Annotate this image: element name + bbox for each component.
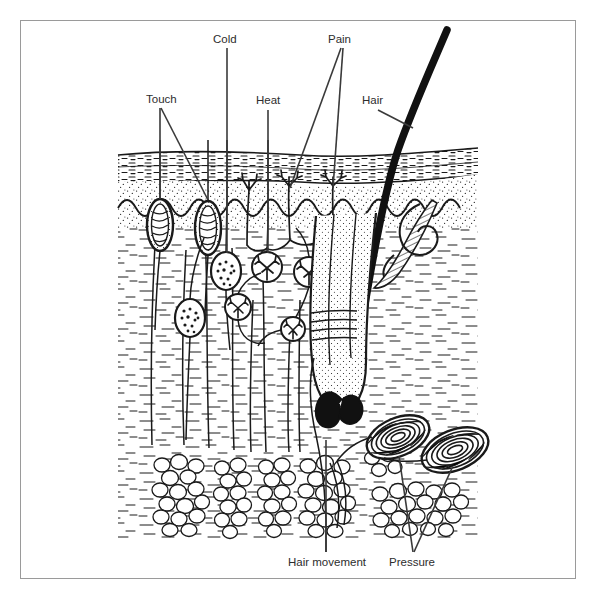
label-heat: Heat <box>256 94 281 106</box>
label-pain: Pain <box>328 33 351 45</box>
label-hair: Hair <box>362 94 383 106</box>
label-pressure: Pressure <box>389 556 435 568</box>
fat-cluster <box>372 482 469 538</box>
label-cold: Cold <box>213 33 237 45</box>
skin-cross-section-diagram: Touch Cold Heat Pain Hair Hair movement … <box>0 0 596 599</box>
label-touch: Touch <box>146 93 177 105</box>
label-hair-movement: Hair movement <box>288 556 367 568</box>
